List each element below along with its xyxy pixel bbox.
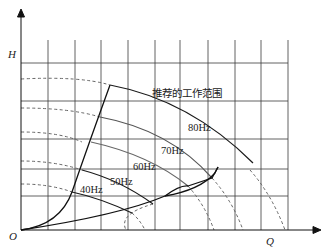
recommended-range-label: 推荐的工作范围 <box>152 87 222 99</box>
label-50hz: 50Hz <box>110 176 133 187</box>
axes <box>18 9 322 234</box>
label-40hz: 40Hz <box>80 184 103 195</box>
y-axis-label: H <box>7 48 17 60</box>
origin-label: O <box>9 230 17 242</box>
label-70hz: 70Hz <box>161 145 184 156</box>
label-80hz: 80Hz <box>188 122 211 133</box>
x-axis-arrow-icon <box>313 227 321 234</box>
left-boundary <box>21 85 110 230</box>
boundary-curves <box>21 85 218 230</box>
label-60hz: 60Hz <box>133 161 156 172</box>
y-axis-arrow-icon <box>18 9 25 17</box>
pump-frequency-diagram: H Q O 推荐的工作范围 80Hz 70Hz 60Hz 50Hz 40Hz <box>0 0 329 252</box>
x-axis-label: Q <box>266 235 274 247</box>
